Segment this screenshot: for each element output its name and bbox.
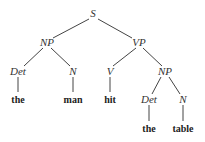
node-det-object: Det	[140, 93, 158, 105]
node-np-object: NP	[157, 65, 172, 77]
word-the-1: the	[11, 94, 25, 105]
node-np-subject: NP	[39, 36, 54, 48]
syntax-tree: S NP VP Det N V NP Det N the man hit the…	[0, 0, 205, 142]
node-n-object: N	[178, 93, 187, 105]
word-table: table	[172, 123, 194, 134]
node-det-subject: Det	[9, 65, 27, 77]
word-hit: hit	[104, 94, 116, 105]
word-man: man	[64, 94, 83, 105]
word-the-2: the	[142, 123, 156, 134]
node-v: V	[107, 65, 115, 77]
node-n-subject: N	[68, 65, 77, 77]
node-s: S	[90, 7, 96, 19]
node-vp: VP	[132, 36, 146, 48]
